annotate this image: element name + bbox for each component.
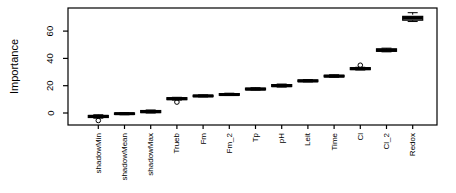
x-axis: shadowMinshadowMeanshadowMaxTruebFmFm_2T… xyxy=(94,125,417,181)
x-tick-label: shadowMin xyxy=(94,133,103,173)
x-tick-label: pH xyxy=(277,133,286,143)
box-Redox xyxy=(403,13,423,22)
x-tick-label: Fm xyxy=(199,133,208,145)
x-tick-label: shadowMean xyxy=(120,133,129,181)
x-tick-label: Trueb xyxy=(172,132,181,153)
x-tick-label: Time xyxy=(330,132,339,150)
x-tick-label: shadowMax xyxy=(146,133,155,176)
y-axis: 0204060 xyxy=(45,26,69,116)
outlier-point xyxy=(96,118,101,123)
importance-boxplot: 0204060ImportanceshadowMinshadowMeanshad… xyxy=(0,0,456,193)
y-tick-label: 40 xyxy=(45,53,56,64)
box-Cl xyxy=(350,63,370,70)
x-tick-label: Tp xyxy=(251,132,260,142)
box-shadowMean xyxy=(115,113,135,115)
plot-frame xyxy=(68,8,437,125)
box-shadowMax xyxy=(141,110,161,113)
box-Fm_2 xyxy=(219,93,239,95)
box-Leit xyxy=(298,80,318,82)
y-tick-label: 20 xyxy=(45,80,56,91)
box-Trueb xyxy=(167,97,187,104)
x-tick-label: Cl_2 xyxy=(382,132,391,149)
box-Cl_2 xyxy=(377,48,397,52)
y-axis-title: Importance xyxy=(8,39,20,94)
x-tick-label: Leit xyxy=(303,132,312,146)
x-tick-label: Cl xyxy=(356,133,365,141)
box-Time xyxy=(324,75,344,77)
y-tick-label: 60 xyxy=(45,26,56,37)
y-tick-label: 0 xyxy=(45,110,56,115)
x-tick-label: Redox xyxy=(408,133,417,156)
boxplot-figure: 0204060ImportanceshadowMinshadowMeanshad… xyxy=(0,0,456,193)
box-pH xyxy=(272,84,292,87)
box-Tp xyxy=(246,88,266,90)
x-tick-label: Fm_2 xyxy=(225,132,234,153)
box-shadowMin xyxy=(88,115,108,123)
box-Fm xyxy=(193,95,213,97)
